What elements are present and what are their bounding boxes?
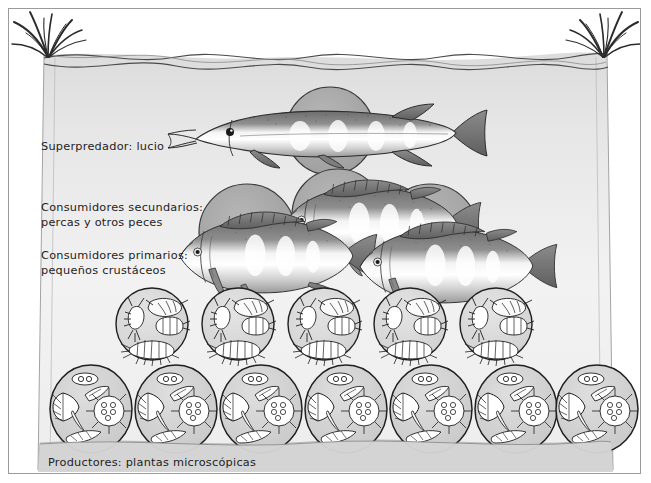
label-superpredator: Superpredador: lucio bbox=[41, 139, 164, 154]
label-producers: Productores: plantas microscópicas bbox=[48, 455, 256, 470]
sediment-band-overlay bbox=[0, 0, 651, 483]
label-primary-consumers-line1: Consumidores primarios: bbox=[41, 248, 188, 263]
label-secondary-consumers-line2: percas y otros peces bbox=[41, 215, 163, 230]
label-primary-consumers-line2: pequeños crustáceos bbox=[41, 263, 166, 278]
food-pyramid-diagram: Superpredador: lucio Consumidores secund… bbox=[0, 0, 651, 483]
label-secondary-consumers-line1: Consumidores secundarios: bbox=[41, 200, 203, 215]
